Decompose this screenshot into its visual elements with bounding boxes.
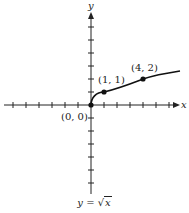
point-1-1-label: (1, 1) <box>98 74 125 85</box>
point-origin <box>88 102 93 107</box>
origin-label: (0, 0) <box>61 111 88 122</box>
function-caption: y = √x <box>0 197 189 208</box>
sqrt-graph: y x (1, 1) (4, 2) (0, 0) <box>0 0 189 213</box>
y-axis-arrow-icon <box>88 12 94 19</box>
caption-lhs: y = <box>77 197 97 208</box>
point-4-2 <box>140 76 145 81</box>
x-axis-label: x <box>181 99 187 110</box>
point-4-2-label: (4, 2) <box>131 62 158 73</box>
x-axis-arrow-icon <box>173 102 180 108</box>
caption-radicand: x <box>105 197 111 208</box>
point-1-1 <box>101 89 106 94</box>
y-axis-label: y <box>87 0 94 11</box>
